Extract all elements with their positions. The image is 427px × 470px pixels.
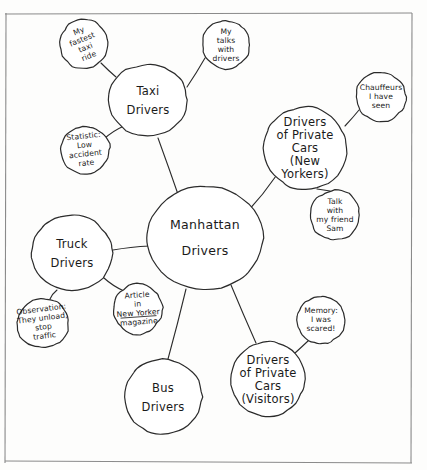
satellite-node-talk-with-my-friend-sam[interactable]: Talkwithmy friendSam: [310, 190, 359, 240]
satellite-node-my-talks-with-drivers[interactable]: Mytalkswithdrivers: [203, 21, 250, 70]
hub-node-manhattan-drivers[interactable]: ManhattanDrivers: [147, 186, 264, 289]
connector-private-ny-to-sam: [317, 189, 330, 191]
connector-hub-to-private-visitors: [231, 285, 256, 343]
connector-hub-to-taxi: [158, 138, 180, 200]
connector-hub-to-truck: [113, 246, 150, 250]
frame-top-line: [5, 13, 412, 14]
main-node-taxi-drivers[interactable]: TaxiDrivers: [108, 64, 187, 136]
main-node-bus-drivers[interactable]: BusDrivers: [125, 359, 203, 435]
satellite-node-chauffeurs-i-have-seen[interactable]: ChauffeursI haveseen: [356, 73, 406, 122]
node-bubbles: MyfastesttaxirideMytalkswithdriversStati…: [14, 12, 406, 434]
taxi-drivers-outline: [108, 64, 187, 136]
satellite-node-statistic-low-accident-rate[interactable]: Statistic:Lowaccidentrate: [58, 124, 112, 177]
satellite-node-my-fastest-taxi-ride[interactable]: Myfastesttaxiride: [52, 12, 116, 76]
truck-drivers-outline: [31, 215, 113, 291]
connector-visitors-to-memory: [295, 341, 308, 353]
main-node-drivers-private-cars-new-yorkers[interactable]: Driversof PrivateCars(NewYorkers): [263, 106, 347, 189]
main-node-truck-drivers[interactable]: TruckDrivers: [31, 215, 113, 291]
connector-private-ny-to-chauffeurs: [345, 110, 359, 126]
satellite-node-observation-they-unload-stop-traffic[interactable]: Observation:They unload,stoptraffic: [14, 296, 71, 351]
connector-taxi-to-fastest-ride: [101, 63, 116, 77]
mindmap-canvas: MyfastesttaxirideMytalkswithdriversStati…: [0, 0, 427, 470]
frame-left-line: [5, 13, 6, 463]
connector-taxi-to-talks: [187, 58, 205, 87]
frame-bottom-line: [5, 461, 412, 463]
connector-taxi-to-statistic: [104, 126, 124, 139]
manhattan-drivers-outline: [147, 186, 264, 289]
connector-truck-to-article: [104, 278, 124, 291]
satellite-node-article-in-new-yorker-magazine[interactable]: ArticleinNew Yorkermagazine: [112, 281, 165, 336]
satellite-node-memory-i-was-scared[interactable]: Memory:I wasscared!: [297, 296, 345, 343]
connector-hub-to-private-ny: [248, 176, 276, 211]
main-node-drivers-private-cars-visitors[interactable]: Driversof PrivateCars(Visitors): [231, 341, 306, 416]
bus-drivers-outline: [125, 359, 203, 435]
frame-right-line: [411, 13, 412, 463]
drivers-private-cars-visitors-label: Driversof PrivateCars(Visitors): [240, 352, 297, 405]
connector-truck-to-observation: [50, 290, 57, 299]
mindmap-sketch: MyfastesttaxirideMytalkswithdriversStati…: [0, 0, 427, 470]
connector-hub-to-bus: [168, 289, 186, 359]
